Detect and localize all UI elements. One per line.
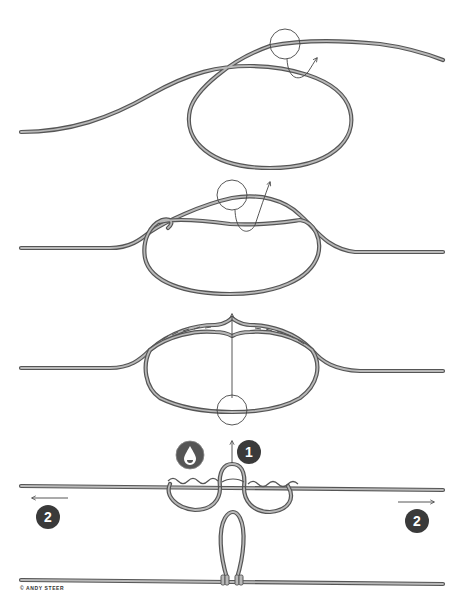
step-badge-pull-left: 2 (36, 505, 60, 529)
step-3 (21, 314, 443, 425)
step-5 (21, 512, 443, 585)
illustrator-credit: © ANDY STEER (20, 585, 64, 591)
svg-text:1: 1 (245, 444, 253, 460)
wrap-twists (168, 479, 298, 487)
rope (21, 464, 443, 512)
step-4: 1 2 2 (21, 440, 443, 533)
knot-diagram: 1 2 2 (0, 0, 467, 611)
svg-text:2: 2 (44, 509, 52, 525)
moisten-badge (176, 441, 204, 469)
step-1 (21, 29, 443, 168)
step-2 (21, 180, 443, 294)
step-badge-pull-right: 2 (405, 509, 429, 533)
step-badge-pull-loop: 1 (237, 440, 261, 464)
rope (21, 196, 443, 294)
svg-text:2: 2 (413, 513, 421, 529)
rope (21, 512, 443, 584)
rope (21, 41, 443, 168)
